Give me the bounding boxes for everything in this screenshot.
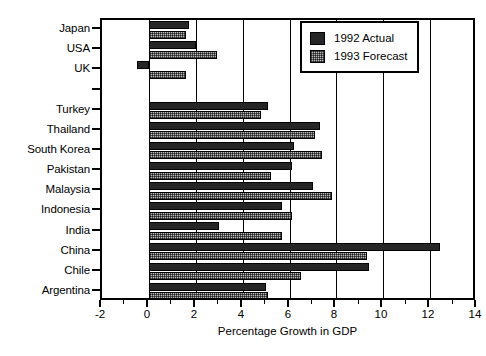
- x-tick-minor: [264, 300, 265, 304]
- x-axis-title: Percentage Growth in GDP: [100, 325, 475, 337]
- y-category-label: Chile: [64, 264, 90, 276]
- legend-entry-1993-forecast: 1993 Forecast: [310, 47, 408, 65]
- bar-forecast: [149, 71, 187, 79]
- y-tick: [92, 269, 100, 271]
- x-tick-label: 8: [331, 308, 337, 320]
- bar-actual: [149, 243, 440, 251]
- x-tick-major: [146, 300, 148, 307]
- x-tick-major: [474, 300, 476, 307]
- bar-actual: [149, 182, 313, 190]
- bar-actual: [149, 222, 219, 230]
- y-tick: [92, 188, 100, 190]
- bar-forecast: [149, 272, 301, 280]
- x-tick-major: [193, 300, 195, 307]
- bar-actual: [149, 283, 266, 291]
- y-axis: JapanUSAUKTurkeyThailandSouth KoreaPakis…: [0, 18, 100, 300]
- x-tick-label: 2: [191, 308, 197, 320]
- y-tick: [92, 27, 100, 29]
- bar-actual: [149, 142, 294, 150]
- x-tick-major: [427, 300, 429, 307]
- legend-label-1993-forecast: 1993 Forecast: [334, 50, 408, 62]
- x-tick-minor: [358, 300, 359, 304]
- bar-group: [102, 282, 473, 300]
- bar-forecast: [149, 131, 315, 139]
- bar-forecast: [149, 172, 271, 180]
- x-tick-label: -2: [95, 308, 105, 320]
- y-tick: [92, 289, 100, 291]
- x-tick-major: [99, 300, 101, 307]
- bar-actual: [149, 122, 320, 130]
- x-tick-minor: [123, 300, 124, 304]
- y-category-label: Japan: [59, 22, 90, 34]
- bar-forecast: [149, 252, 367, 260]
- y-category-label: Thailand: [47, 123, 90, 135]
- chart-legend: 1992 Actual 1993 Forecast: [300, 21, 419, 73]
- y-tick: [92, 108, 100, 110]
- x-tick-label: 14: [469, 308, 482, 320]
- bar-group: [102, 201, 473, 221]
- y-tick: [92, 249, 100, 251]
- y-tick: [92, 229, 100, 231]
- y-tick: [92, 67, 100, 69]
- y-category-label: UK: [74, 62, 90, 74]
- y-tick: [92, 208, 100, 210]
- bar-actual: [137, 61, 149, 69]
- x-tick-label: 0: [144, 308, 150, 320]
- bar-forecast: [149, 151, 322, 159]
- y-category-label: USA: [67, 42, 90, 54]
- plot-area: [100, 18, 475, 300]
- legend-swatch-forecast-icon: [310, 50, 325, 63]
- x-tick-major: [333, 300, 335, 307]
- x-tick-minor: [452, 300, 453, 304]
- x-tick-major: [240, 300, 242, 307]
- x-tick-label: 10: [375, 308, 388, 320]
- bar-group: [102, 161, 473, 181]
- y-tick: [92, 47, 100, 49]
- y-tick: [92, 128, 100, 130]
- x-tick-label: 4: [238, 308, 244, 320]
- legend-swatch-actual-icon: [310, 32, 325, 45]
- bar-forecast: [149, 51, 217, 59]
- bar-group: [102, 141, 473, 161]
- bar-group: [102, 262, 473, 282]
- y-tick: [92, 148, 100, 150]
- bar-forecast: [149, 111, 262, 119]
- legend-entry-1992-actual: 1992 Actual: [310, 29, 408, 47]
- y-category-label: Turkey: [56, 103, 90, 115]
- bar-group: [102, 242, 473, 262]
- x-tick-major: [380, 300, 382, 307]
- bar-group: [102, 121, 473, 141]
- bar-group: [102, 80, 473, 100]
- bar-forecast: [149, 192, 332, 200]
- bar-group: [102, 101, 473, 121]
- bar-forecast: [149, 212, 292, 220]
- y-category-label: Pakistan: [47, 163, 90, 175]
- bar-actual: [149, 41, 196, 49]
- y-category-label: Argentina: [42, 284, 90, 296]
- x-tick-minor: [405, 300, 406, 304]
- x-tick-minor: [311, 300, 312, 304]
- legend-label-1992-actual: 1992 Actual: [334, 32, 394, 44]
- x-tick-minor: [170, 300, 171, 304]
- bar-actual: [149, 263, 369, 271]
- x-tick-label: 12: [422, 308, 435, 320]
- bar-forecast: [149, 232, 283, 240]
- bar-forecast: [149, 31, 187, 39]
- y-category-label: Malaysia: [45, 183, 90, 195]
- bar-actual: [149, 21, 189, 29]
- bar-forecast: [149, 292, 269, 300]
- x-tick-label: 6: [285, 308, 291, 320]
- y-category-label: China: [60, 244, 90, 256]
- x-tick-major: [287, 300, 289, 307]
- bar-group: [102, 181, 473, 201]
- bar-actual: [149, 102, 269, 110]
- y-category-label: Indonesia: [41, 203, 90, 215]
- gdp-growth-bar-chart: JapanUSAUKTurkeyThailandSouth KoreaPakis…: [0, 0, 486, 356]
- bar-actual: [149, 162, 292, 170]
- bar-group: [102, 221, 473, 241]
- y-category-label: India: [66, 224, 90, 236]
- x-tick-minor: [217, 300, 218, 304]
- y-tick: [92, 88, 100, 90]
- bar-actual: [149, 202, 283, 210]
- y-tick: [92, 168, 100, 170]
